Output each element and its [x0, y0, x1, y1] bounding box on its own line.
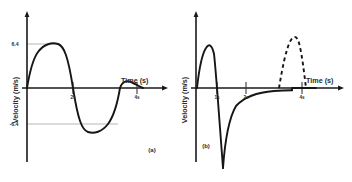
chart-panel-b: 1s 2s 4s Time (s) Velocity (m/s) (b): [176, 0, 352, 182]
x-axis-arrow: [162, 86, 168, 91]
x-tick-label-2s: 2s: [70, 95, 76, 100]
figure-container: 6.4 -6.4 2s 4s Time (s) Velocity (m/s) (…: [0, 0, 352, 182]
x-tick-label-1s: 1s: [214, 95, 220, 100]
y-axis-title: Velocity (m/s): [180, 76, 189, 123]
velocity-spike-down-b: [217, 88, 223, 168]
y-axis-arrow: [194, 11, 199, 17]
velocity-expected-dashed-b: [279, 37, 306, 88]
x-tick-label-4s: 4s: [134, 95, 140, 100]
velocity-recovery-b: [223, 90, 292, 168]
panel-a-svg: 6.4 -6.4 2s 4s Time (s) Velocity (m/s) (…: [0, 0, 176, 182]
chart-panel-a: 6.4 -6.4 2s 4s Time (s) Velocity (m/s) (…: [0, 0, 176, 182]
y-axis-title: Velocity (m/s): [11, 76, 20, 123]
x-axis-title: Time (s): [121, 76, 149, 85]
x-tick-label-4s: 4s: [299, 95, 305, 100]
y-tick-label-positive: 6.4: [11, 41, 18, 47]
panel-caption-a: (a): [148, 147, 155, 153]
x-tick-label-2s: 2s: [243, 95, 249, 100]
x-axis-arrow: [338, 86, 344, 91]
velocity-return-zero-b: [292, 88, 316, 90]
panel-b-svg: 1s 2s 4s Time (s) Velocity (m/s) (b): [176, 0, 352, 182]
y-axis-arrow: [25, 11, 30, 17]
velocity-pulse-b: [197, 45, 217, 88]
panel-caption-b: (b): [202, 143, 210, 149]
x-axis-title: Time (s): [306, 76, 334, 85]
